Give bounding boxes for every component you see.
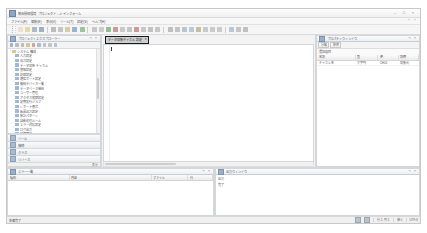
options-button[interactable]: [236, 26, 243, 33]
errors-pin-button[interactable]: ⊣: [202, 170, 206, 174]
properties-panel: プロパティ ウィンドウ ⊣ × 分類 順序 選択項目 名前型値説明 チャネル名文…: [316, 35, 420, 167]
tree-filter-button[interactable]: [42, 43, 47, 48]
run-button[interactable]: [105, 26, 112, 33]
column-header[interactable]: 名前: [317, 55, 356, 60]
menu-item-view[interactable]: 表示(V): [46, 19, 56, 24]
accordion-item-resource[interactable]: リソース: [8, 155, 100, 162]
document-selector-dropdown[interactable]: データ収集 チャネル 設定 ▾: [105, 36, 149, 44]
cut-button[interactable]: [50, 26, 57, 33]
paste-button[interactable]: [65, 26, 72, 33]
new-button[interactable]: [17, 26, 24, 33]
rebuild-button[interactable]: [98, 26, 105, 33]
debug-button[interactable]: [126, 26, 133, 33]
redo-button[interactable]: [79, 26, 86, 33]
properties-button[interactable]: [229, 26, 236, 33]
editor-horizontal-scroll-thumb[interactable]: [105, 163, 176, 166]
find-button[interactable]: [181, 26, 188, 33]
output-title-buttons: ⊣ ×: [408, 170, 418, 174]
properties-table[interactable]: 名前型値説明 チャネル名文字列CH01収集元: [316, 55, 420, 168]
project-explorer-icon: [10, 36, 16, 42]
tree-new-item-button[interactable]: [26, 43, 31, 48]
grid-button[interactable]: [243, 26, 250, 33]
workspace-body: プロジェクト エクスプローラー ⊣ × −システム 構成入力設定出力設定データ収…: [7, 35, 420, 167]
props-pin-button[interactable]: ⊣: [408, 37, 412, 41]
step-button[interactable]: [119, 26, 126, 33]
column-header[interactable]: 種別: [8, 175, 70, 180]
column-header[interactable]: 値: [378, 55, 398, 60]
panel-pin-button[interactable]: ⊣: [89, 37, 93, 41]
save-all-button[interactable]: [38, 26, 45, 33]
chevron-down-icon: ▾: [145, 38, 147, 41]
build-button[interactable]: [91, 26, 98, 33]
replace-button[interactable]: [188, 26, 195, 33]
project-tree-scroll-thumb[interactable]: [97, 78, 100, 100]
props-close-button[interactable]: ×: [413, 37, 417, 41]
doc-close-button[interactable]: ×: [413, 19, 417, 23]
copy-button[interactable]: [57, 26, 64, 33]
column-header[interactable]: 内容: [70, 175, 152, 180]
tree-delete-button[interactable]: [31, 43, 36, 48]
node-icon: [15, 105, 19, 108]
editor-horizontal-scrollbar[interactable]: [103, 162, 314, 167]
window-controls: – □ ×: [392, 10, 418, 16]
bookmark-button[interactable]: [195, 26, 202, 33]
project-tree[interactable]: −システム 構成入力設定出力設定データ収集 チャネル警報設定記録設定通信ポート設…: [7, 49, 101, 134]
menu-item-help[interactable]: ヘルプ(H): [92, 19, 106, 24]
maximize-button[interactable]: □: [401, 10, 407, 16]
doc-restore-button[interactable]: □: [407, 19, 411, 23]
comment-button[interactable]: [202, 26, 209, 33]
table-row[interactable]: チャネル名文字列CH01収集元: [317, 61, 419, 67]
tree-collapse-button[interactable]: [15, 43, 20, 48]
memory-button[interactable]: [155, 26, 162, 33]
status-indicator-1[interactable]: [355, 217, 361, 223]
tree-refresh-icon: [10, 43, 14, 47]
accordion-item-class[interactable]: クラス: [8, 148, 100, 155]
toolbar-grip[interactable]: [12, 26, 16, 33]
zoom-out-button[interactable]: [174, 26, 181, 33]
errors-close-button[interactable]: ×: [207, 170, 211, 174]
indent-button[interactable]: [209, 26, 216, 33]
menu-item-edit[interactable]: 編集(E): [31, 19, 41, 24]
output-line: 完了: [216, 181, 419, 187]
column-header[interactable]: 型: [356, 55, 378, 60]
undo-button[interactable]: [72, 26, 79, 33]
tree-expand-button[interactable]: [20, 43, 25, 48]
minimize-button[interactable]: –: [392, 10, 398, 16]
column-header[interactable]: 行: [188, 175, 213, 180]
menu-item-file[interactable]: ファイル(F): [11, 19, 27, 24]
column-header[interactable]: ファイル: [152, 175, 189, 180]
menu-item-tools[interactable]: ツール(T): [60, 19, 73, 24]
properties-icon: [229, 27, 234, 32]
error-list-body[interactable]: 種別内容ファイル行: [7, 175, 214, 216]
panel-close-button[interactable]: ×: [94, 37, 98, 41]
accordion-item-toolbox[interactable]: ツール: [8, 134, 100, 141]
column-header[interactable]: 説明: [399, 55, 419, 60]
watch-button[interactable]: [141, 26, 148, 33]
props-category-button[interactable]: 分類: [318, 42, 329, 48]
tree-search-button[interactable]: [53, 43, 58, 48]
project-tree-scrollbar[interactable]: [96, 49, 101, 133]
callstack-button[interactable]: [148, 26, 155, 33]
output-close-button[interactable]: ×: [413, 170, 417, 174]
save-button[interactable]: [31, 26, 38, 33]
status-indicator-2[interactable]: [364, 217, 370, 223]
tree-properties-button[interactable]: [37, 43, 42, 48]
open-button[interactable]: [24, 26, 31, 33]
props-alpha-button[interactable]: 順序: [330, 42, 341, 48]
tree-refresh-button[interactable]: [9, 43, 14, 48]
output-pin-button[interactable]: ⊣: [408, 170, 412, 174]
stop-button[interactable]: [112, 26, 119, 33]
document-editor-surface[interactable]: [103, 44, 314, 162]
accordion-item-server[interactable]: 接続: [8, 141, 100, 148]
outdent-button[interactable]: [216, 26, 223, 33]
output-body[interactable]: 出力完了: [215, 175, 420, 216]
breakpoint-button[interactable]: [133, 26, 140, 33]
node-icon: [15, 91, 19, 94]
tree-item[interactable]: 履歴管理: [8, 132, 100, 134]
zoom-in-button[interactable]: [167, 26, 174, 33]
options-icon: [236, 27, 241, 32]
tree-sort-button[interactable]: [48, 43, 53, 48]
menu-item-settings[interactable]: 設定(S): [77, 19, 87, 24]
error-list-title-bar: エラー 一覧 ⊣ ×: [7, 168, 214, 175]
close-button[interactable]: ×: [410, 10, 416, 16]
